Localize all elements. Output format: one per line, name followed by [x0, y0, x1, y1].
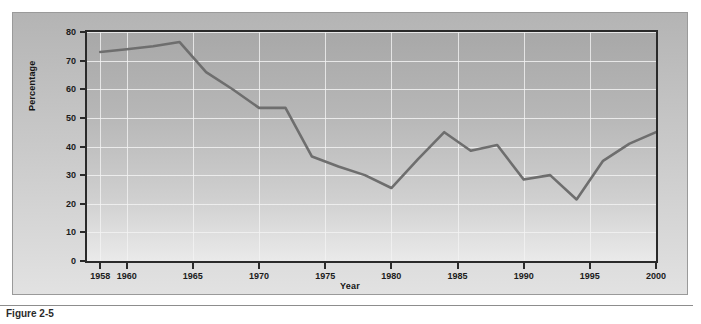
x-axis-tick-label: 1958 [90, 272, 110, 281]
y-axis-tick-label: 70 [50, 56, 76, 65]
x-axis-tick-label: 1970 [249, 272, 269, 281]
y-axis-tick-label: 40 [50, 142, 76, 151]
plot-area [85, 30, 658, 263]
y-axis-tick-label: 60 [50, 85, 76, 94]
y-axis-tick-label: 20 [50, 199, 76, 208]
x-axis-tick-label: 1990 [514, 272, 534, 281]
x-axis-tick-mark [655, 263, 657, 269]
x-axis-tick-mark [457, 263, 459, 269]
x-axis-tick-label: 1965 [183, 272, 203, 281]
y-axis-tick-label: 0 [50, 257, 76, 266]
y-axis-tick-label: 10 [50, 228, 76, 237]
data-line-percentage [100, 42, 656, 199]
x-axis-tick-mark [523, 263, 525, 269]
y-axis-tick-label: 80 [50, 28, 76, 37]
x-axis-tick-label: 1995 [580, 272, 600, 281]
x-axis-tick-label: 1980 [381, 272, 401, 281]
y-axis: 01020304050607080 [51, 30, 85, 267]
x-axis-tick-mark [258, 263, 260, 269]
figure-caption: Figure 2-5 [6, 308, 54, 324]
y-axis-tick-label: 50 [50, 113, 76, 122]
chart-series-layer [87, 32, 656, 261]
y-axis-tick-label: 30 [50, 171, 76, 180]
x-axis-tick-mark [192, 263, 194, 269]
x-axis-tick-mark [390, 263, 392, 269]
x-axis-tick-label: 1960 [117, 272, 137, 281]
x-axis-tick-mark [324, 263, 326, 269]
x-axis-tick-label: 1985 [447, 272, 467, 281]
y-axis-title: Percentage [27, 60, 37, 111]
x-axis-tick-label: 2000 [646, 272, 666, 281]
x-axis-tick-mark [99, 263, 101, 269]
x-axis-tick-mark [589, 263, 591, 269]
x-axis-tick-mark [126, 263, 128, 269]
plot-inner [87, 32, 656, 261]
x-axis-title: Year [13, 281, 687, 291]
caption-divider [0, 305, 693, 306]
x-axis-tick-label: 1975 [315, 272, 335, 281]
figure-panel: 01020304050607080 1958196019651970197519… [12, 12, 688, 295]
